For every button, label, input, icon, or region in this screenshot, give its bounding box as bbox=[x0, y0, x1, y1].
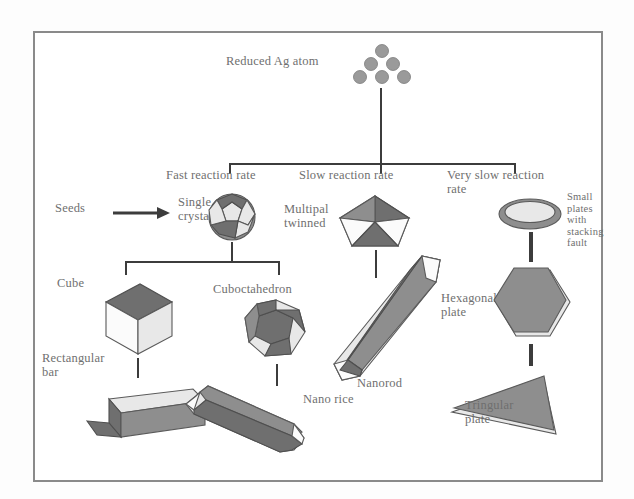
tringular-plate-label: Tringular plate bbox=[465, 399, 514, 426]
root-label: Reduced Ag atom bbox=[226, 55, 319, 69]
hexagonal-plate-label: Hexagonal plate bbox=[441, 292, 497, 319]
rectangular-bar-label: Rectangular bar bbox=[42, 352, 105, 379]
cube-label: Cube bbox=[57, 277, 84, 291]
cube-shape bbox=[100, 280, 178, 358]
multipal-twinned-shape bbox=[338, 194, 412, 250]
hexagonal-plate-shape bbox=[490, 266, 574, 348]
seeds-label: Seeds bbox=[55, 202, 85, 216]
small-plate-shape bbox=[497, 196, 563, 232]
branch-label-fast: Fast reaction rate bbox=[166, 169, 256, 183]
cuboctahedron-drop bbox=[278, 261, 280, 275]
branch-label-slow: Slow reaction rate bbox=[299, 169, 394, 183]
reduced-ag-atom-cluster bbox=[349, 44, 419, 88]
seeds-arrow-icon bbox=[113, 206, 171, 220]
cuboctahedron-label: Cuboctahedron bbox=[213, 283, 292, 297]
nanorod-shape bbox=[326, 248, 450, 388]
branch-label-very-slow: Very slow reaction rate bbox=[447, 169, 544, 196]
small-plates-stem bbox=[529, 232, 533, 262]
cube-to-bar-line bbox=[137, 358, 139, 378]
single-crystal-shape bbox=[207, 192, 257, 242]
cube-drop bbox=[125, 261, 127, 275]
cuboctahedron-shape bbox=[243, 298, 309, 364]
figure-canvas: Reduced Ag atom Fast reaction rate Slow … bbox=[0, 0, 634, 499]
branch-bus bbox=[229, 163, 516, 165]
small-plates-label: Small plates with stacking fault bbox=[567, 191, 604, 249]
nanorod-label: Nanorod bbox=[357, 377, 402, 391]
trunk-line bbox=[380, 88, 382, 164]
nano-rice-shape bbox=[182, 378, 322, 460]
multipal-twinned-label: Multipal twinned bbox=[284, 203, 329, 230]
hexagonal-to-triangular-line bbox=[529, 344, 533, 366]
single-crystal-split-bus bbox=[125, 261, 280, 263]
single-crystal-stem bbox=[231, 242, 233, 262]
